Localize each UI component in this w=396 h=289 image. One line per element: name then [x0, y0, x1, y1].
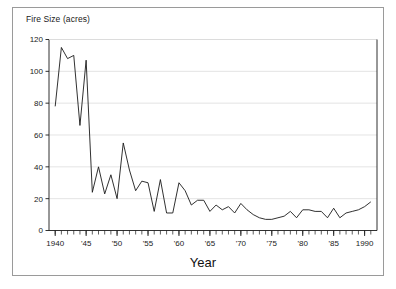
x-axis-minor-ticks-group: [55, 231, 371, 235]
y-tick-label: 60: [34, 131, 43, 140]
y-tick-label: 20: [34, 195, 43, 204]
x-axis-ticks-group: 1940'45'50'55'60'65'70'75'80'851990: [46, 231, 374, 248]
x-tick-label: '45: [81, 239, 92, 248]
y-tick-label: 40: [34, 163, 43, 172]
x-tick-label: '50: [112, 239, 123, 248]
y-axis-ticks-group: 020406080100120: [30, 35, 49, 235]
y-tick-label: 80: [34, 99, 43, 108]
x-axis-label: Year: [190, 255, 216, 270]
x-tick-label: '65: [205, 239, 216, 248]
x-tick-label: '70: [236, 239, 247, 248]
x-tick-label: '75: [267, 239, 278, 248]
line-chart-plot: 020406080100120 1940'45'50'55'60'65'70'7…: [0, 0, 396, 289]
y-tick-label: 120: [30, 35, 44, 44]
x-tick-label: '60: [174, 239, 185, 248]
x-tick-label: 1990: [356, 239, 374, 248]
data-series-line: [55, 47, 371, 219]
x-tick-label: '80: [298, 239, 309, 248]
x-tick-label: '85: [328, 239, 339, 248]
x-tick-label: 1940: [46, 239, 64, 248]
y-tick-label: 100: [30, 67, 44, 76]
x-tick-label: '55: [143, 239, 154, 248]
x-axis-label-wrapper: Year: [0, 255, 396, 270]
gridlines-group: [49, 40, 377, 199]
y-tick-label: 0: [39, 226, 44, 235]
chart-figure: Fire Size (acres) 020406080100120 1940'4…: [0, 0, 396, 289]
